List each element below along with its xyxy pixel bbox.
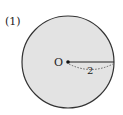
problem-number: (1) — [5, 15, 21, 28]
center-label: O — [54, 56, 63, 69]
radius-label: 2 — [87, 65, 93, 76]
circle-diagram: (1) O 2 — [0, 0, 123, 115]
diagram-canvas: (1) O 2 — [0, 0, 123, 115]
center-point — [66, 60, 70, 64]
